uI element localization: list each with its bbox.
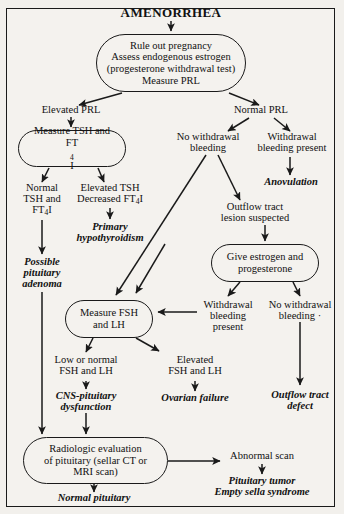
workup-line-1: Rule out pregnancy — [107, 40, 235, 52]
node-elevated-prl: Elevated PRL — [26, 104, 116, 115]
node-radiologic-evaluation: Radiologic evaluation of pituitary (sell… — [23, 437, 168, 484]
measure-tsh-line-2: FT4I — [34, 137, 110, 172]
workup-line-2: Assess endogenous estrogen — [107, 51, 235, 63]
node-normal-prl: Normal PRL — [216, 104, 306, 115]
node-elevated-tsh: Elevated TSH Decreased FT4I — [62, 182, 158, 204]
workup-line-4: Measure PRL — [107, 75, 235, 87]
measure-tsh-line-1: Measure TSH and — [34, 125, 110, 137]
outcome-ovarian-failure: Ovarian failure — [145, 392, 245, 403]
node-measure-tsh: Measure TSH and FT4I — [18, 130, 126, 167]
outcome-anovulation: Anovulation — [248, 176, 334, 187]
outcome-pituitary-tumor-empty-sella: Pituitary tumor Empty sella syndrome — [185, 475, 339, 497]
node-withdrawal-bleeding-present-1: Withdrawal bleeding present — [248, 131, 336, 153]
flowchart-page: AMENORRHEA Rule out pregnancy Assess end… — [0, 0, 344, 514]
node-abnormal-scan: Abnormal scan — [216, 450, 308, 461]
node-low-or-normal-fsh-lh: Low or normal FSH and LH — [36, 354, 136, 376]
node-give-estrogen-progesterone: Give estrogen and progesterone — [211, 244, 319, 282]
node-outflow-tract-lesion-suspected: Outflow tract lesion suspected — [205, 201, 305, 223]
chart-title: AMENORRHEA — [111, 6, 231, 20]
outcome-cns-pituitary-dysfunction: CNS-pituitary dysfunction — [34, 390, 138, 412]
outcome-outflow-tract-defect: Outflow tract defect — [258, 389, 342, 411]
node-no-withdrawal-bleeding-1: No withdrawal bleeding — [164, 131, 252, 153]
workup-line-3: (progesterone withdrawal test) — [107, 63, 235, 75]
node-measure-fsh-lh: Measure FSH and LH — [65, 300, 153, 338]
outcome-normal-pituitary: Normal pituitary — [40, 492, 148, 503]
node-initial-workup: Rule out pregnancy Assess endogenous est… — [96, 34, 246, 92]
outcome-primary-hypothyroidism: Primary hypothyroidism — [60, 221, 160, 243]
node-no-withdrawal-bleeding-2: No withdrawal bleeding · — [258, 299, 342, 321]
node-elevated-fsh-lh: Elevated FSH and LH — [150, 354, 240, 376]
outcome-possible-pituitary-adenoma: Possible pituitary adenoma — [6, 256, 78, 289]
node-withdrawal-bleeding-present-2: Withdrawal bleeding present — [195, 299, 261, 332]
